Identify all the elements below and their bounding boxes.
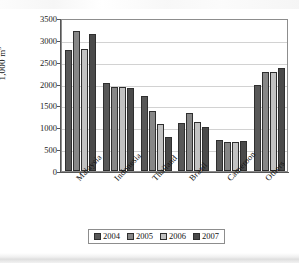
bar [89, 34, 96, 171]
bar [65, 50, 72, 171]
bar-chart: 1,000 m3 3500300025002000150010005000 Ma… [0, 0, 299, 263]
legend-item[interactable]: 2004 [94, 232, 120, 241]
bar [270, 72, 277, 171]
y-axis-tick-label: 3500 [27, 15, 57, 23]
bar [119, 87, 126, 171]
bar-group [141, 20, 173, 171]
bar-group [103, 20, 135, 171]
bar-group [65, 20, 97, 171]
bar [141, 96, 148, 171]
y-axis-title: 1,000 m3 [0, 46, 7, 80]
legend-label: 2006 [169, 232, 186, 241]
plot-area [61, 19, 288, 172]
legend-item[interactable]: 2006 [160, 232, 186, 241]
bar [81, 49, 88, 171]
bar [278, 68, 285, 171]
x-axis-line [60, 172, 289, 173]
legend-swatch-icon [94, 233, 101, 240]
bar [186, 113, 193, 171]
bar [178, 123, 185, 171]
bar [111, 87, 118, 171]
bar-group [254, 20, 286, 171]
y-axis-tick-label: 3000 [27, 37, 57, 45]
legend-label: 2007 [202, 232, 219, 241]
y-axis-tick-label: 2500 [27, 59, 57, 67]
bar [216, 140, 223, 171]
legend-swatch-icon [193, 233, 200, 240]
y-axis-title-text: 1,000 m [0, 50, 7, 81]
bar-group [178, 20, 210, 171]
y-axis-tick-label: 1500 [27, 102, 57, 110]
bar [224, 142, 231, 172]
bar [73, 31, 80, 171]
y-axis-tick-label: 0 [27, 168, 57, 176]
y-axis-title-exponent: 3 [0, 46, 2, 49]
bar [149, 111, 156, 171]
bar-group [216, 20, 248, 171]
y-axis-tick-label: 2000 [27, 81, 57, 89]
y-axis-tick-label: 500 [27, 146, 57, 154]
legend-label: 2004 [103, 232, 120, 241]
legend-item[interactable]: 2007 [193, 232, 219, 241]
legend-swatch-icon [160, 233, 167, 240]
bar [262, 72, 269, 171]
chart-legend: 2004200520062007 [88, 229, 225, 244]
legend-swatch-icon [127, 233, 134, 240]
legend-label: 2005 [136, 232, 153, 241]
y-axis-tick-label: 1000 [27, 124, 57, 132]
legend-item[interactable]: 2005 [127, 232, 153, 241]
